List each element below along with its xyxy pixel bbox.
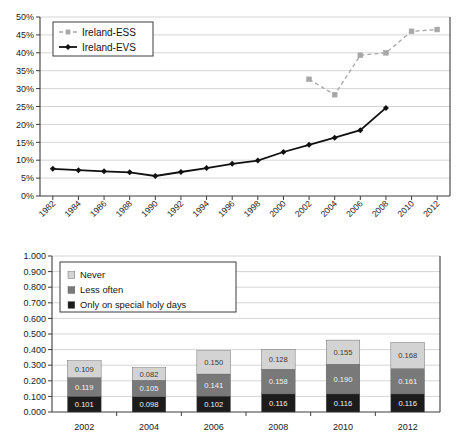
- data-point-marker: [280, 149, 286, 155]
- x-axis-label: 1982: [37, 198, 58, 219]
- legend-item-label: Only on special holy days: [80, 299, 187, 310]
- x-axis-label: 2010: [395, 198, 416, 219]
- data-point-marker: [204, 165, 210, 171]
- bar-value-label: 0.102: [204, 400, 223, 409]
- bar-value-label: 0.109: [75, 365, 94, 374]
- legend-item-label: Ireland-EVS: [82, 42, 136, 53]
- line-series-1: [309, 30, 437, 95]
- x-axis-label: 2008: [268, 422, 288, 432]
- x-axis-label: 1984: [62, 198, 83, 219]
- data-point-marker: [229, 161, 235, 167]
- x-axis-label: 2004: [319, 198, 340, 219]
- y-axis-label: 0.800: [23, 282, 46, 292]
- y-axis-label: 10%: [16, 155, 34, 165]
- bar-value-label: 0.190: [333, 375, 352, 384]
- data-point-marker: [384, 50, 389, 55]
- bar-value-label: 0.158: [269, 377, 288, 386]
- y-axis-label: 0.500: [23, 329, 46, 339]
- data-point-marker: [358, 53, 363, 58]
- y-axis-label: 0.000: [23, 407, 46, 417]
- y-axis-label: 0.900: [23, 267, 46, 277]
- x-axis-label: 2002: [74, 422, 94, 432]
- stacked-bar-chart-canvas: 0.0000.1000.2000.3000.4000.5000.6000.700…: [0, 232, 457, 445]
- y-axis-label: 25%: [16, 102, 34, 112]
- x-axis-label: 1988: [114, 198, 135, 219]
- y-axis-label: 50%: [16, 12, 34, 22]
- x-axis-label: 1994: [190, 198, 211, 219]
- line-chart-religious-attendance: 0%5%10%15%20%25%30%35%40%45%50%198219841…: [0, 0, 457, 232]
- x-axis-label: 2012: [398, 422, 418, 432]
- legend-item-label: Ireland-ESS: [82, 27, 136, 38]
- bar-value-label: 0.168: [398, 351, 417, 360]
- x-axis-label: 2004: [139, 422, 159, 432]
- y-axis-label: 40%: [16, 48, 34, 58]
- y-axis-label: 0.100: [23, 392, 46, 402]
- y-axis-label: 1.000: [23, 251, 46, 261]
- x-axis-label: 2006: [204, 422, 224, 432]
- bar-value-label: 0.101: [75, 400, 94, 409]
- y-axis-label: 0.400: [23, 345, 46, 355]
- legend-swatch-icon: [68, 272, 75, 279]
- legend-item-label: Less often: [80, 284, 123, 295]
- data-point-marker: [101, 168, 107, 174]
- data-point-marker: [409, 29, 414, 34]
- bar-value-label: 0.155: [333, 348, 352, 357]
- bar-value-label: 0.082: [139, 370, 158, 379]
- y-axis-label: 45%: [16, 30, 34, 40]
- line-chart-canvas: 0%5%10%15%20%25%30%35%40%45%50%198219841…: [0, 0, 457, 232]
- stacked-bar-chart-attendance-categories: 0.0000.1000.2000.3000.4000.5000.6000.700…: [0, 232, 457, 445]
- legend-marker-square-icon: [66, 30, 71, 35]
- bar-value-label: 0.116: [334, 399, 352, 408]
- data-point-marker: [50, 166, 56, 172]
- bar-value-label: 0.119: [75, 383, 93, 392]
- bar-value-label: 0.105: [139, 384, 158, 393]
- y-axis-label: 20%: [16, 120, 34, 130]
- data-point-marker: [178, 169, 184, 175]
- y-axis-label: 5%: [21, 173, 34, 183]
- x-axis-label: 1992: [165, 198, 186, 219]
- bar-value-label: 0.161: [398, 377, 417, 386]
- line-series-2: [53, 108, 386, 176]
- bar-value-label: 0.098: [139, 400, 158, 409]
- data-point-marker: [255, 158, 261, 164]
- y-axis-label: 30%: [16, 84, 34, 94]
- x-axis-label: 2000: [267, 198, 288, 219]
- x-axis-label: 1986: [88, 198, 109, 219]
- x-axis-label: 1998: [242, 198, 263, 219]
- legend-item-label: Never: [80, 269, 105, 280]
- y-axis-label: 35%: [16, 66, 34, 76]
- bar-value-label: 0.116: [398, 399, 416, 408]
- legend-swatch-icon: [68, 287, 75, 294]
- bar-value-label: 0.141: [204, 381, 223, 390]
- y-axis-label: 15%: [16, 138, 34, 148]
- bar-value-label: 0.116: [269, 399, 287, 408]
- bar-value-label: 0.150: [204, 358, 223, 367]
- bar-value-label: 0.128: [269, 355, 288, 364]
- x-axis-label: 2002: [293, 198, 314, 219]
- data-point-marker: [75, 167, 81, 173]
- data-point-marker: [332, 92, 337, 97]
- legend-swatch-icon: [68, 302, 75, 309]
- data-point-marker: [435, 27, 440, 32]
- x-axis-label: 2010: [333, 422, 353, 432]
- y-axis-label: 0.300: [23, 360, 46, 370]
- x-axis-label: 1996: [216, 198, 237, 219]
- y-axis-label: 0%: [21, 191, 34, 201]
- y-axis-label: 0.700: [23, 298, 46, 308]
- y-axis-label: 0.200: [23, 376, 46, 386]
- data-point-marker: [127, 169, 133, 175]
- y-axis-label: 0.600: [23, 314, 46, 324]
- x-axis-label: 2008: [370, 198, 391, 219]
- data-point-marker: [307, 77, 312, 82]
- data-point-marker: [306, 142, 312, 148]
- x-axis-label: 2006: [344, 198, 365, 219]
- x-axis-label: 2012: [421, 198, 442, 219]
- x-axis-label: 1990: [139, 198, 160, 219]
- data-point-marker: [332, 135, 338, 141]
